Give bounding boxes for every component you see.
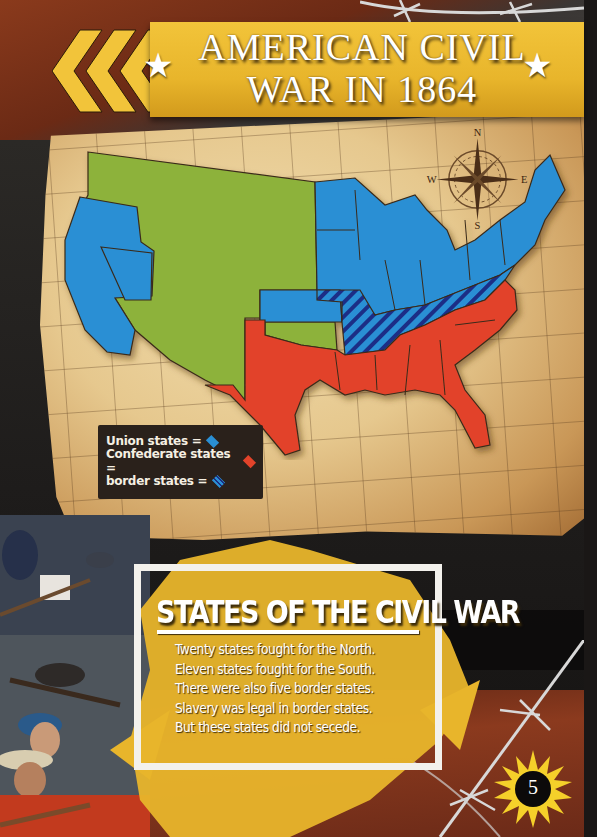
legend-item-confederate: Confederate states = (106, 451, 255, 471)
red-diamond-icon (243, 455, 256, 468)
page-title: AMERICAN CIVIL WAR IN 1864 (172, 26, 552, 110)
body-line: Eleven states fought for the South. (175, 660, 435, 680)
map-legend: Union states = Confederate states = bord… (98, 425, 263, 499)
textbox-body: Twenty states fought for the North. Elev… (175, 640, 435, 738)
legend-label-border: border states = (106, 474, 207, 488)
title-line-1: AMERICAN CIVIL (172, 26, 552, 68)
compass-north-label: N (474, 127, 482, 138)
textbox-heading: STATES OF THE CIVIL WAR (156, 592, 519, 633)
legend-label-confederate: Confederate states = (106, 447, 238, 475)
title-line-2: WAR IN 1864 (172, 68, 552, 110)
body-line: Slavery was legal in border states. (175, 699, 435, 719)
legend-label-union: Union states = (106, 434, 201, 448)
us-map-1864 (55, 150, 575, 460)
striped-diamond-icon (212, 474, 225, 487)
page-number: 5 (492, 776, 574, 799)
heading-underline (157, 630, 419, 634)
body-line: There were also five border states. (175, 679, 435, 699)
body-line: But these states did not secede. (175, 718, 435, 738)
body-line: Twenty states fought for the North. (175, 640, 435, 660)
blue-diamond-icon (206, 434, 219, 447)
star-left-icon: ★ (143, 48, 173, 82)
